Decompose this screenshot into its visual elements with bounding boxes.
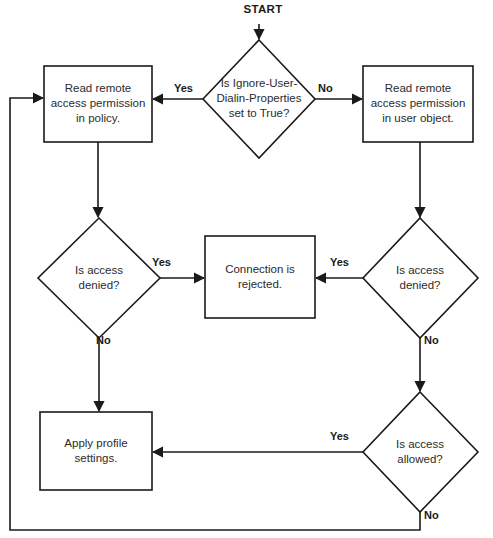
edge-label-no-ignore-dialin: No [318,82,333,94]
shape-process-read-user-object [363,66,473,142]
edge-label-no-denied-user: No [424,334,439,346]
shape-decision-access-denied-policy [38,218,160,338]
edge-label-yes-denied-user: Yes [330,256,349,268]
edge-label-no-access-allowed: No [424,509,439,521]
shape-decision-access-allowed [363,392,478,512]
edge-label-yes-access-allowed: Yes [330,430,349,442]
edge-label-yes-ignore-dialin: Yes [174,82,193,94]
flowchart-canvas: START Is Ignore-User- Dialin-Properties … [0,0,493,538]
shape-process-apply-profile [40,412,152,490]
edge-label-no-denied-policy: No [96,334,111,346]
shape-process-connection-rejected [205,236,315,318]
flowchart-graphics [0,0,493,538]
shape-decision-ignore-user-dialin [203,40,315,158]
edge-label-yes-denied-policy: Yes [152,256,171,268]
shape-process-read-policy [44,66,152,142]
start-label: START [233,3,293,15]
shape-decision-access-denied-user [363,218,478,338]
